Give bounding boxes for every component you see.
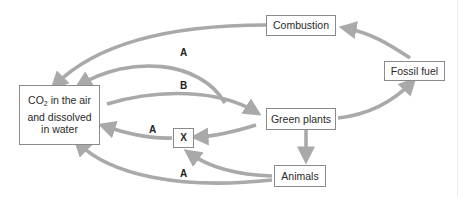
arrow-label-a-middle: A <box>149 124 156 135</box>
arrow-animals-to-x <box>189 153 272 176</box>
node-combustion: Combustion <box>266 15 336 36</box>
arrow-label-a-top: A <box>180 47 187 58</box>
co2-line2: and dissolved <box>27 111 91 124</box>
arrow-x-to-co2-a <box>104 126 172 138</box>
arrow-label-a-bottom: A <box>180 168 187 179</box>
co2-line3: in water <box>41 123 78 136</box>
arrow-plants-to-co2-a <box>80 66 225 103</box>
arrow-plants-to-x <box>197 125 256 137</box>
arrow-fuel-to-combustion <box>345 28 410 58</box>
node-co2: CO2 in the air and dissolved in water <box>19 85 100 145</box>
arrow-label-b: B <box>180 80 187 91</box>
arrow-combustion-to-co2 <box>55 25 266 85</box>
co2-line1: CO2 in the air <box>28 94 91 111</box>
node-animals: Animals <box>274 165 326 187</box>
node-x: X <box>173 128 194 148</box>
arrow-plants-to-fuel <box>338 82 412 118</box>
node-fossil-fuel: Fossil fuel <box>384 61 445 81</box>
arrow-co2-to-plants-b <box>107 94 256 112</box>
carbon-cycle-diagram: CO2 in the air and dissolved in water Co… <box>0 0 464 197</box>
arrow-animals-to-co2-a <box>78 143 272 183</box>
node-green-plants: Green plants <box>266 108 336 130</box>
